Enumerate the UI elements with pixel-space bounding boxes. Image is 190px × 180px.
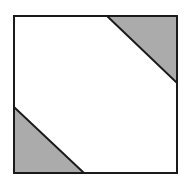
diagram-canvas: [0, 0, 190, 180]
square-with-shaded-corners-figure: [0, 0, 190, 180]
